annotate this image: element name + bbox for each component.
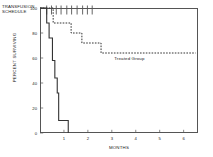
data-series-svg [40,8,198,133]
y-axis-tick-label: 0 [25,131,37,136]
x-axis-tick-label: 1 [59,136,69,141]
series-line-control-group [40,8,68,133]
series-line-treated-group [40,8,196,53]
x-axis-tick-label: 6 [179,136,189,141]
y-axis-title: PERCENT SURVIVING [12,19,17,97]
x-axis-title: MONTHS [40,145,198,150]
x-axis-tick-label: 2 [83,136,93,141]
x-axis-tick-label: 3 [107,136,117,141]
y-axis-tick-label: 60 [25,56,37,61]
treated-group-label: Treated Group [114,56,144,61]
y-axis-tick-label: 20 [25,106,37,111]
plot-area [40,8,198,133]
x-axis-tick-label: 4 [131,136,141,141]
y-axis-tick-label: 80 [25,31,37,36]
x-axis-tick-label: 5 [155,136,165,141]
y-axis-tick-label: 40 [25,81,37,86]
chart-root: TRANSFUSION SCHEDULE PERCENT SURVIVING M… [0,0,213,157]
y-axis-tick-label: 100 [25,6,37,11]
